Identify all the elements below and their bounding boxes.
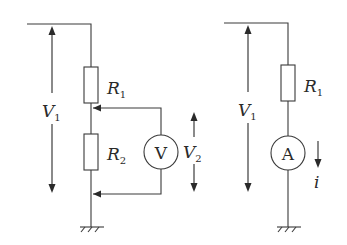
ground-icon [277,227,301,232]
current-arrow [315,141,322,168]
ammeter: A [271,136,305,170]
right-resistor-r1 [281,65,295,101]
arrow-head-icon [93,105,101,112]
arrow-head-icon [93,191,101,198]
label-r2: R2 [106,144,126,166]
label-r1-right: R1 [303,76,323,98]
voltmeter-bottom-lead [93,169,161,194]
right-top-wire [224,23,288,65]
circuit-diagram: V R1 R2 V1 V2 [0,0,347,245]
label-r1-left: R1 [106,78,126,100]
voltmeter-top-lead [93,108,161,135]
voltmeter: V [144,135,178,169]
left-resistor-r1 [84,67,98,103]
left-resistor-r2 [84,134,98,170]
label-v1-right: V1 [238,100,257,122]
label-v1-left: V1 [42,101,61,123]
voltmeter-glyph: V [154,143,168,163]
label-v2: V2 [183,142,202,164]
label-current-i: i [314,172,319,192]
right-circuit: A R1 V1 i [224,23,323,232]
ammeter-glyph: A [281,144,295,164]
left-circuit: V R1 R2 V1 V2 [27,24,202,232]
ground-icon [80,227,104,232]
left-top-wire [27,24,91,67]
